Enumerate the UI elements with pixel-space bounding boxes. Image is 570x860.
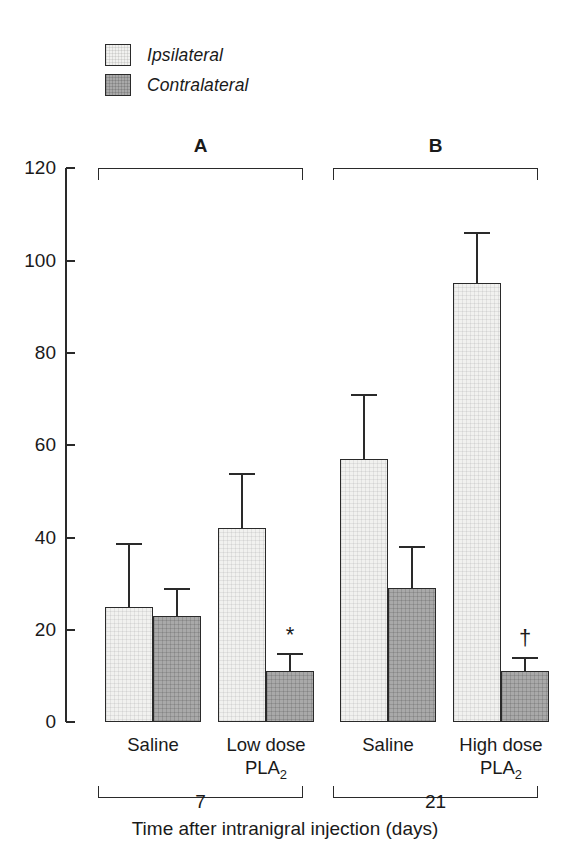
y-tick-label-0: 0: [8, 712, 56, 731]
error-bar-stem-contralateral-saline-21: [411, 546, 413, 588]
y-tick-60: [66, 444, 75, 446]
condition-label-highdose-21-line2: PLA: [480, 757, 515, 778]
condition-label-lowdose-7-line1: Low dose: [226, 734, 305, 755]
condition-label-highdose-21: High dose PLA2: [451, 733, 551, 786]
y-tick-label-60: 60: [8, 435, 56, 454]
y-tick-40: [66, 537, 75, 539]
x-axis-title: Time after intranigral injection (days): [0, 818, 570, 840]
error-bar-cap-contralateral-saline-21: [399, 546, 425, 548]
condition-label-saline-21: Saline: [338, 733, 438, 756]
error-bar-stem-contralateral-lowdose-7: [289, 653, 291, 671]
y-tick-100: [66, 260, 75, 262]
bar-contralateral-lowdose-7: [266, 671, 314, 722]
condition-label-highdose-21-line1: High dose: [459, 734, 542, 755]
y-tick-label-20: 20: [8, 620, 56, 639]
bar-ipsilateral-lowdose-7: [218, 528, 266, 722]
bar-contralateral-saline-7: [153, 616, 201, 722]
condition-label-lowdose-7-line2: PLA: [245, 757, 280, 778]
condition-label-saline-7-line1: Saline: [127, 734, 178, 755]
group-label-b: B: [333, 136, 538, 155]
y-tick-0: [66, 721, 75, 723]
time-label-21: 21: [333, 792, 538, 811]
condition-label-lowdose-7: Low dose PLA2: [216, 733, 316, 786]
error-bar-stem-contralateral-saline-7: [176, 588, 178, 616]
bar-ipsilateral-saline-7: [105, 607, 153, 722]
error-bar-stem-ipsilateral-saline-7: [128, 543, 130, 607]
error-bar-cap-contralateral-lowdose-7: [277, 653, 303, 655]
error-bar-stem-contralateral-highdose-21: [524, 657, 526, 671]
bar-contralateral-highdose-21: [501, 671, 549, 722]
error-bar-cap-contralateral-saline-7: [164, 588, 190, 590]
error-bar-stem-ipsilateral-highdose-21: [476, 232, 478, 283]
group-bracket-a: [98, 168, 303, 180]
bar-contralateral-saline-21: [388, 588, 436, 722]
condition-label-lowdose-7-subscript: 2: [280, 767, 287, 782]
condition-label-saline-21-line1: Saline: [362, 734, 413, 755]
y-tick-label-80: 80: [8, 343, 56, 362]
error-bar-cap-ipsilateral-lowdose-7: [229, 473, 255, 475]
y-tick-label-40: 40: [8, 528, 56, 547]
bar-ipsilateral-highdose-21: [453, 283, 501, 722]
condition-label-highdose-21-subscript: 2: [515, 767, 522, 782]
y-tick-120: [66, 167, 75, 169]
significance-marker-dagger: †: [512, 627, 538, 649]
significance-marker-asterisk: *: [277, 624, 303, 646]
error-bar-cap-ipsilateral-saline-21: [351, 394, 377, 396]
group-label-a: A: [98, 136, 303, 155]
y-tick-label-120: 120: [8, 158, 56, 177]
y-tick-20: [66, 629, 75, 631]
error-bar-cap-ipsilateral-highdose-21: [464, 232, 490, 234]
group-bracket-b: [333, 168, 538, 180]
error-bar-stem-ipsilateral-saline-21: [363, 394, 365, 459]
condition-label-saline-7: Saline: [103, 733, 203, 756]
error-bar-cap-ipsilateral-saline-7: [116, 543, 142, 545]
bar-chart: 0 20 40 60 80 100 120 A B * † Saline: [0, 0, 570, 860]
time-label-7: 7: [98, 792, 303, 811]
error-bar-stem-ipsilateral-lowdose-7: [241, 473, 243, 528]
y-tick-label-100: 100: [8, 251, 56, 270]
error-bar-cap-contralateral-highdose-21: [512, 657, 538, 659]
y-tick-80: [66, 352, 75, 354]
bar-ipsilateral-saline-21: [340, 459, 388, 722]
